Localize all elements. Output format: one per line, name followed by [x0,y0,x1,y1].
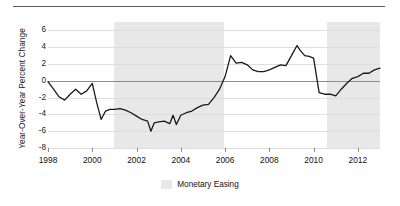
y-axis-tick-labels: 6420-2-4-6-8 [6,22,46,148]
x-tick-mark [358,148,359,152]
y-tick-label: -4 [12,110,46,118]
x-tick-label: 2002 [117,155,157,165]
y-tick-label: 0 [12,77,46,85]
plot-area [48,22,380,148]
chart-legend: Monetary Easing [0,180,400,189]
legend-swatch-monetary-easing [161,180,172,189]
y-tick-label: 2 [12,60,46,68]
y-tick-label: 4 [12,43,46,51]
x-tick-label: 2008 [249,155,289,165]
x-tick-mark [48,148,49,152]
x-tick-label: 2006 [205,155,245,165]
legend-label-monetary-easing: Monetary Easing [177,180,238,189]
x-tick-mark [314,148,315,152]
y-tick-label: -8 [12,144,46,152]
x-tick-mark [269,148,270,152]
x-tick-label: 1998 [28,155,68,165]
x-tick-mark [181,148,182,152]
x-axis-tick-labels: 19982000200220042006200820102012 [48,148,380,172]
y-tick-label: -6 [12,127,46,135]
x-tick-mark [225,148,226,152]
y-tick-label: 6 [12,26,46,34]
x-tick-label: 2004 [161,155,201,165]
data-series-layer [48,22,380,148]
x-tick-label: 2000 [72,155,112,165]
y-tick-label: -2 [12,94,46,102]
x-tick-mark [92,148,93,152]
x-tick-mark [137,148,138,152]
chart-figure: Year-Over-Year Percent Change 6420-2-4-6… [0,0,400,206]
x-tick-label: 2010 [294,155,334,165]
series-line-year-over-year-percent-change [48,46,380,132]
x-tick-label: 2012 [338,155,378,165]
top-divider-rule [13,6,385,7]
